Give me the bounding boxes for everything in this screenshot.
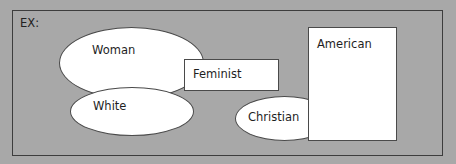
white-label: White: [93, 99, 126, 113]
white-ellipse: [70, 87, 194, 136]
christian-label: Christian: [248, 110, 299, 124]
feminist-label: Feminist: [193, 67, 241, 81]
example-label: EX:: [20, 16, 39, 30]
woman-label: Woman: [92, 43, 135, 57]
american-label: American: [317, 37, 372, 51]
diagram-canvas: EX: Woman Feminist White American Christ…: [0, 0, 456, 164]
